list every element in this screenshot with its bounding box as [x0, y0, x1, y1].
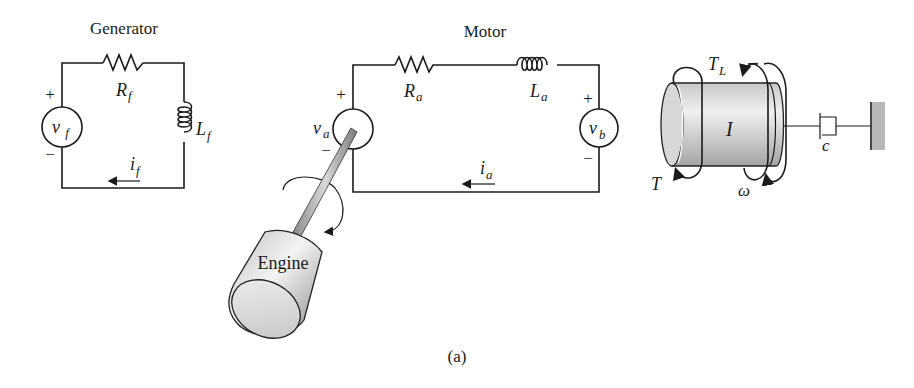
engine-rotation-arrow-icon [326, 188, 343, 232]
vb-subscript: b [599, 127, 606, 142]
va-minus-sign: − [321, 141, 331, 160]
ra-symbol: R [403, 81, 415, 101]
generator-title: Generator [90, 19, 158, 38]
fixed-wall [872, 102, 885, 150]
generator-circuit: Generator v f + − R f L f i f [42, 19, 213, 188]
va-subscript: a [323, 126, 330, 141]
inductor-la [517, 58, 547, 71]
dc-motor-generator-diagram: Generator v f + − R f L f i f Motor [0, 0, 914, 388]
la-subscript: a [541, 89, 548, 104]
vb-minus-sign: − [583, 149, 593, 168]
vf-subscript: f [65, 125, 71, 140]
va-symbol: v [313, 118, 321, 138]
vb-symbol: v [589, 118, 597, 138]
rf-subscript: f [128, 88, 134, 103]
motor-title: Motor [464, 22, 507, 41]
vf-plus-sign: + [45, 85, 55, 104]
va-plus-sign: + [336, 85, 346, 104]
tl-subscript: L [718, 63, 726, 78]
if-symbol: i [130, 154, 135, 174]
vf-symbol: v [52, 117, 60, 137]
resistor-rf [103, 55, 143, 70]
t-label: T [651, 174, 663, 194]
if-subscript: f [136, 163, 142, 178]
engine-label: Engine [258, 253, 309, 273]
motor-circuit: Motor v a + − v b + − R a L a i a [313, 22, 618, 192]
omega-label: ω [738, 181, 750, 200]
lf-subscript: f [207, 128, 213, 143]
rf-symbol: R [115, 80, 127, 100]
inertia-cylinder-face [661, 83, 683, 166]
damper-label: c [822, 136, 830, 155]
motor-wire-bottom [353, 147, 599, 192]
vb-plus-sign: + [583, 89, 593, 108]
engine-assembly: Engine [222, 128, 357, 350]
voltage-source-vf [42, 107, 82, 147]
generator-wire-top-left [62, 63, 103, 107]
vf-minus-sign: − [45, 145, 55, 164]
figure-caption: (a) [448, 347, 467, 366]
ia-symbol: i [480, 158, 485, 178]
inductor-lf [178, 102, 192, 132]
mechanical-load: I T L T ω c [651, 54, 885, 200]
ia-subscript: a [486, 167, 493, 182]
generator-wire-top-right [143, 63, 184, 102]
inertia-label: I [725, 118, 734, 140]
ra-subscript: a [416, 89, 423, 104]
la-symbol: L [529, 81, 540, 101]
resistor-ra [395, 57, 437, 72]
motor-wire-top-left [353, 65, 395, 109]
lf-symbol: L [195, 119, 206, 139]
